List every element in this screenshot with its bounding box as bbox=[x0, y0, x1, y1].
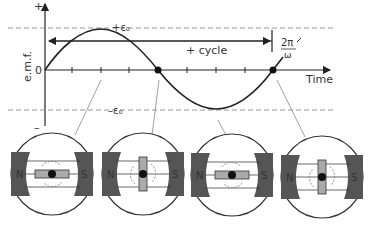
y-axis-label: e.m.f. bbox=[21, 51, 34, 82]
x-axis-label: Time bbox=[305, 73, 333, 86]
svg-text:N: N bbox=[286, 172, 293, 183]
peak-negative-label: –ε₀ bbox=[108, 105, 122, 116]
generator-4: N S bbox=[281, 136, 363, 218]
zero-crossing-dot bbox=[270, 67, 277, 74]
emf-diagram: + – 0 e.m.f. +ε₀ –ε₀ + cycle 2π ω Time N… bbox=[0, 0, 383, 229]
svg-text:S: S bbox=[172, 169, 178, 180]
generator-3: N S bbox=[191, 134, 273, 216]
svg-text:S: S bbox=[81, 169, 87, 180]
period-numerator: 2π bbox=[281, 37, 293, 48]
cycle-label: + cycle bbox=[186, 44, 227, 57]
generator-1: N S bbox=[11, 133, 93, 215]
y-minus-label: – bbox=[34, 121, 40, 134]
generator-2: N S bbox=[102, 133, 184, 215]
zero-label: 0 bbox=[35, 64, 42, 77]
svg-text:S: S bbox=[351, 172, 357, 183]
svg-text:S: S bbox=[261, 170, 267, 181]
svg-text:N: N bbox=[196, 170, 203, 181]
zero-crossing-dot bbox=[155, 67, 162, 74]
period-denominator: ω bbox=[284, 50, 292, 60]
y-plus-label: + bbox=[34, 0, 43, 13]
peak-positive-label: +ε₀ bbox=[112, 22, 130, 33]
svg-text:N: N bbox=[16, 169, 23, 180]
svg-text:N: N bbox=[107, 169, 114, 180]
